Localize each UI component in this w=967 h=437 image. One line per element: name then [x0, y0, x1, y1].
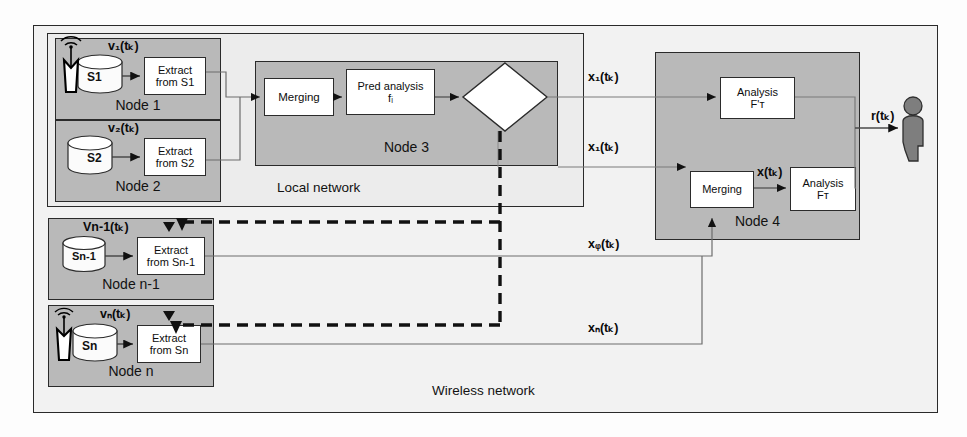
path-extract1-to-merging3 — [206, 72, 260, 97]
control-feedback-dashed-path — [170, 131, 500, 334]
diagram-canvas: Node 1 v₁(tₖ) Extract from S1 S1 Node 2 … — [0, 0, 967, 437]
connector-layer — [0, 0, 967, 437]
path-analysis-f-to-output — [855, 128, 856, 188]
node-2-store-label: S2 — [87, 152, 102, 165]
node-n-antenna-icon — [55, 308, 73, 360]
path-analysis-fprime-to-output — [795, 97, 855, 128]
node-1-store-label: S1 — [87, 71, 102, 84]
node-n-minus-1-store-label: Sn-1 — [72, 251, 96, 263]
signal-input-arrows — [163, 222, 175, 321]
path-extract-n-to-merging4 — [201, 256, 702, 344]
user-figure-icon — [903, 97, 923, 161]
node-n-store-label: Sn — [82, 340, 97, 353]
need-decision-diamond[interactable] — [463, 63, 547, 131]
path-extract2-to-merging3 — [206, 97, 240, 160]
